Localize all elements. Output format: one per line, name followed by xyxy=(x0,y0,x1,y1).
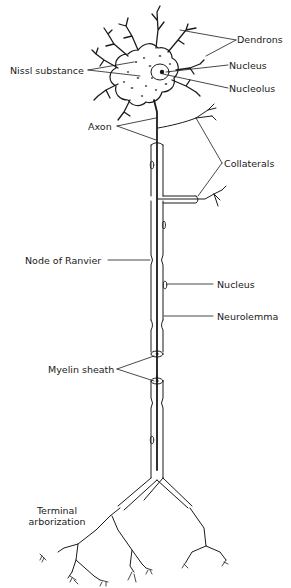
collateral-lower xyxy=(158,186,226,206)
label-axon: Axon xyxy=(88,121,112,132)
label-nucleus-sheath: Nucleus xyxy=(217,279,255,290)
terminal-arborization xyxy=(40,478,228,586)
label-nucleus-cell: Nucleus xyxy=(229,60,267,71)
label-collaterals: Collaterals xyxy=(224,158,274,169)
collateral-upper xyxy=(158,104,216,128)
label-neurolemma: Neurolemma xyxy=(217,311,278,322)
label-nissl-substance: Nissl substance xyxy=(10,65,84,76)
axon xyxy=(154,100,157,470)
label-node-of-ranvier: Node of Ranvier xyxy=(25,255,101,266)
label-terminal-line2: arborization xyxy=(26,516,88,527)
label-nucleolus: Nucleolus xyxy=(229,83,275,94)
label-myelin-sheath: Myelin sheath xyxy=(48,364,114,375)
label-terminal-line1: Terminal xyxy=(26,505,88,516)
label-terminal-arborization: Terminal arborization xyxy=(26,505,88,527)
label-dendrons: Dendrons xyxy=(237,34,283,45)
cell-body xyxy=(92,6,204,120)
myelin-segment xyxy=(151,201,167,357)
